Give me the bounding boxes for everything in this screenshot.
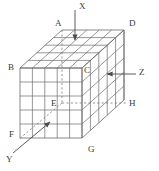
figure-canvas: A B C D E F G H X Y Z (0, 0, 159, 171)
axis-label-x: X (79, 2, 86, 11)
hidden-edges (18, 30, 128, 140)
vertex-label-c: C (84, 66, 90, 75)
axis-arrows (13, 10, 136, 153)
right-face-grid (82, 30, 124, 138)
top-face-grid (20, 30, 124, 68)
axis-label-y: Y (6, 155, 13, 164)
cube-wireframe (20, 30, 124, 138)
vertex-label-g: G (88, 145, 95, 154)
dashed-diagonal-ey (18, 103, 62, 140)
vertex-label-d: D (129, 19, 136, 28)
vertex-label-f: F (9, 130, 14, 139)
vertex-label-b: B (8, 63, 14, 72)
vertex-label-a: A (55, 19, 62, 28)
vertex-label-e: E (51, 99, 57, 108)
vertex-label-h: H (129, 99, 136, 108)
axis-label-z: Z (139, 68, 145, 77)
